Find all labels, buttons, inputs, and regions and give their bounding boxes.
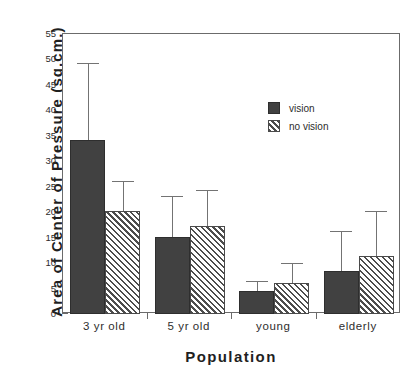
legend-item-no-vision: no vision xyxy=(268,118,328,134)
error-bar-cap xyxy=(112,181,134,182)
y-tick-label: 20 xyxy=(0,206,62,217)
y-tick-label: 30 xyxy=(0,155,62,166)
bar-no-vision-5-yr-old xyxy=(190,226,225,314)
bar-chart-figure: Area of Center of Pressure (sq.cm.) 0510… xyxy=(0,0,414,376)
error-bar-stem xyxy=(88,63,89,140)
y-tick-label: 5 xyxy=(0,282,62,293)
error-bar-cap xyxy=(330,231,352,232)
error-bar-stem xyxy=(376,211,377,256)
bar-no-vision-elderly xyxy=(359,256,394,314)
legend-label-vision: vision xyxy=(289,103,315,114)
error-bar-cap xyxy=(161,196,183,197)
y-tick-label: 15 xyxy=(0,231,62,242)
chart-legend: vision no vision xyxy=(268,100,328,136)
legend-swatch-vision-icon xyxy=(268,102,280,114)
error-bar-stem xyxy=(257,281,258,291)
y-tick-label: 35 xyxy=(0,129,62,140)
error-bar-cap xyxy=(196,190,218,191)
error-bar-cap xyxy=(77,63,99,64)
x-tick-mark xyxy=(147,313,148,319)
error-bar-stem xyxy=(207,190,208,226)
error-bar-stem xyxy=(341,231,342,271)
y-tick-label: 55 xyxy=(0,28,62,39)
y-tick-label: 10 xyxy=(0,257,62,268)
bar-vision-3-yr-old xyxy=(70,140,105,314)
y-tick-label: 25 xyxy=(0,180,62,191)
bar-vision-5-yr-old xyxy=(155,237,190,314)
error-bar-stem xyxy=(123,181,124,212)
y-tick-mark xyxy=(62,313,68,314)
y-tick-label: 50 xyxy=(0,53,62,64)
x-tick-label: 5 yr old xyxy=(167,320,210,332)
plot-area: vision no vision xyxy=(62,33,400,313)
y-tick-label: 40 xyxy=(0,104,62,115)
x-tick-label: elderly xyxy=(339,320,377,332)
legend-item-vision: vision xyxy=(268,100,328,116)
error-bar-cap xyxy=(246,281,268,282)
bar-no-vision-3-yr-old xyxy=(105,211,140,314)
bar-no-vision-young xyxy=(274,283,309,314)
bar-vision-young xyxy=(239,291,274,314)
x-tick-mark xyxy=(231,313,232,319)
error-bar-stem xyxy=(292,263,293,283)
y-tick-label: 0 xyxy=(0,308,62,319)
x-tick-label: young xyxy=(256,320,290,332)
error-bar-stem xyxy=(172,196,173,237)
x-axis-title: Population xyxy=(62,348,400,365)
legend-label-no-vision: no vision xyxy=(289,121,328,132)
y-tick-label: 45 xyxy=(0,78,62,89)
x-tick-label: 3 yr old xyxy=(83,320,126,332)
x-tick-mark xyxy=(316,313,317,319)
error-bar-cap xyxy=(365,211,387,212)
error-bar-cap xyxy=(281,263,303,264)
legend-swatch-no-vision-icon xyxy=(268,120,280,132)
bar-vision-elderly xyxy=(324,271,359,314)
